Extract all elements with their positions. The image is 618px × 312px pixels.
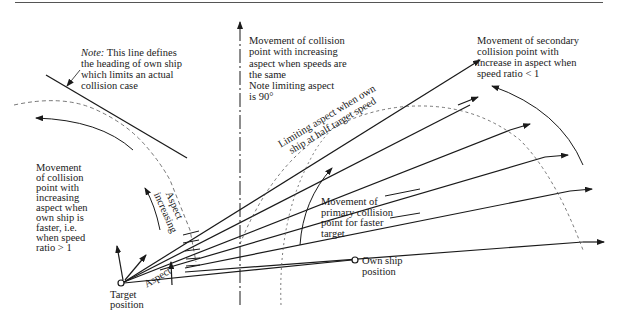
own-ship-position-label: Own ship position [362,255,403,277]
secondary-label: Movement of secondary collision point wi… [477,35,579,79]
secondary-movement-arc [492,86,583,165]
same-speed-label: Movement of collision point with increas… [249,35,347,103]
note-leader [67,70,80,86]
own-ship-position-marker [352,257,358,263]
own-ship-faster-label: Movement of collision point with increas… [36,163,88,253]
primary-label: Movement of primary collision point for … [321,197,393,239]
target-position-marker [118,280,124,286]
target-position-label: Target position [110,290,144,310]
left-movement-arc [36,118,133,150]
target-arrow-up [117,246,123,280]
note-label: Note: This line defines the heading of o… [81,47,182,91]
